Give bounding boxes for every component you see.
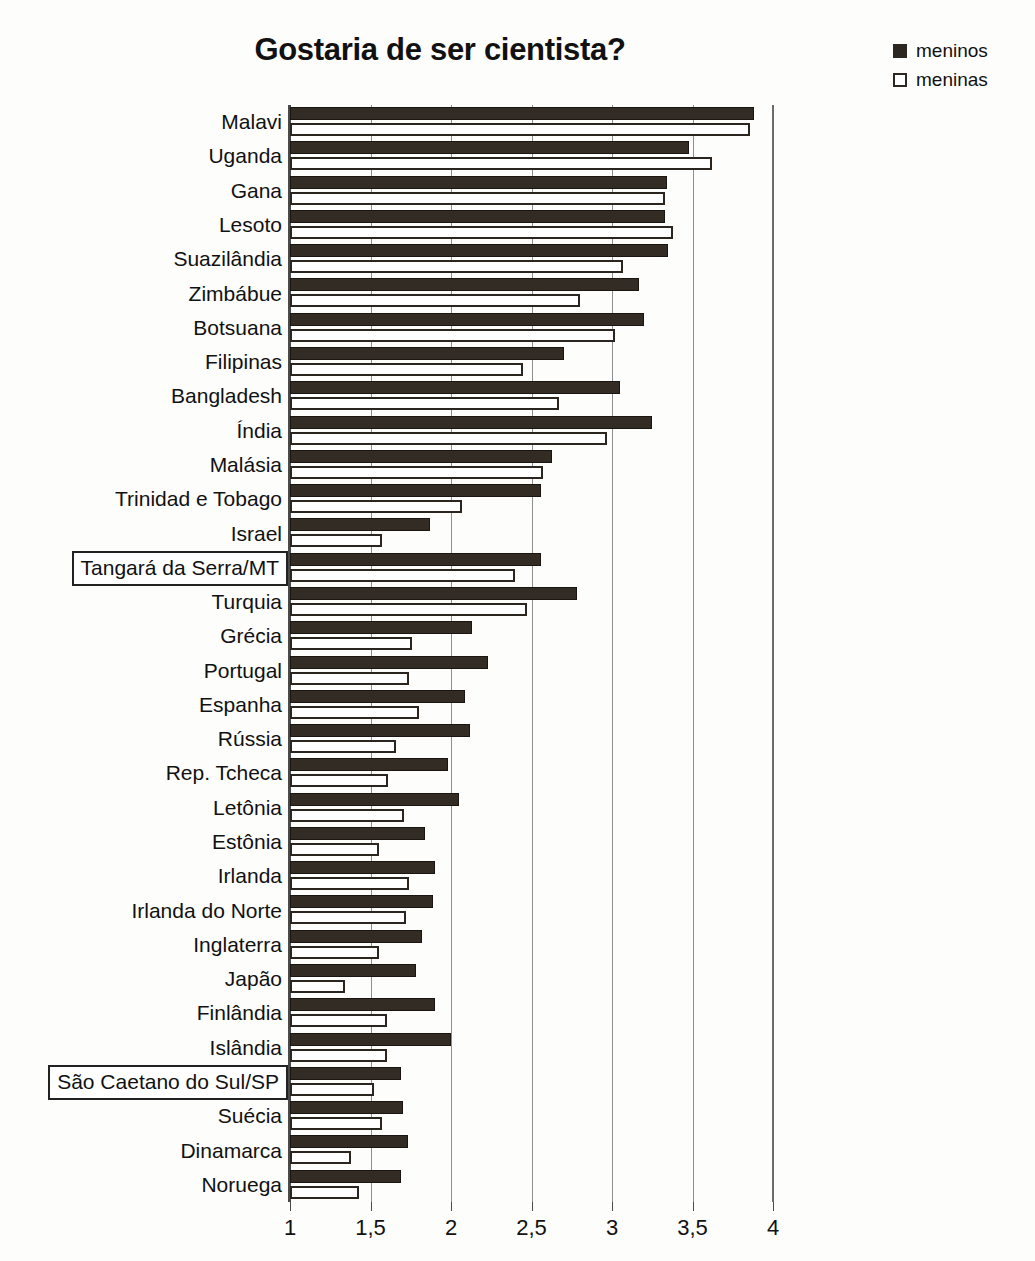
bar-meninas — [290, 946, 379, 959]
bar-row — [290, 379, 773, 413]
bar-row — [290, 928, 773, 962]
x-tick-label: 2 — [421, 1215, 481, 1241]
bar-row — [290, 722, 773, 756]
bar-meninos — [290, 690, 465, 703]
bar-row — [290, 414, 773, 448]
bar-meninos — [290, 827, 425, 840]
category-label: Japão — [225, 966, 282, 992]
bar-meninas — [290, 637, 412, 650]
category-label: Trinidad e Tobago — [115, 486, 282, 512]
category-label: Irlanda — [218, 863, 282, 889]
bar-meninos — [290, 381, 620, 394]
bar-row — [290, 619, 773, 653]
bar-meninas — [290, 603, 527, 616]
bar-meninas — [290, 157, 712, 170]
category-label: Letônia — [213, 795, 282, 821]
bar-row — [290, 516, 773, 550]
x-tick-label: 2,5 — [502, 1215, 562, 1241]
bar-row — [290, 893, 773, 927]
bar-meninas — [290, 1049, 387, 1062]
bar-meninos — [290, 416, 652, 429]
bar-meninos — [290, 724, 470, 737]
category-label: Islândia — [210, 1035, 282, 1061]
bar-meninas — [290, 774, 388, 787]
bar-meninas — [290, 877, 409, 890]
category-label: Lesoto — [219, 212, 282, 238]
bar-row — [290, 551, 773, 585]
category-label: Israel — [231, 521, 282, 547]
bar-meninos — [290, 484, 541, 497]
bar-row — [290, 1168, 773, 1202]
bar-meninos — [290, 210, 665, 223]
bar-row — [290, 105, 773, 139]
category-label: Noruega — [201, 1172, 282, 1198]
bar-meninos — [290, 313, 644, 326]
category-label: Dinamarca — [180, 1138, 282, 1164]
bar-meninas — [290, 294, 580, 307]
bar-row — [290, 1133, 773, 1167]
bar-meninos — [290, 1135, 408, 1148]
bar-meninas — [290, 500, 462, 513]
bar-meninas — [290, 1083, 374, 1096]
bar-row — [290, 688, 773, 722]
x-tick — [290, 1202, 291, 1211]
category-label: São Caetano do Sul/SP — [48, 1065, 288, 1100]
bar-meninas — [290, 911, 406, 924]
x-tick — [451, 1202, 452, 1211]
bar-meninos — [290, 998, 435, 1011]
bar-meninas — [290, 363, 523, 376]
legend-label-meninas: meninas — [916, 69, 988, 91]
bar-row — [290, 1065, 773, 1099]
category-label: Uganda — [208, 143, 282, 169]
bar-meninas — [290, 192, 665, 205]
bar-meninas — [290, 1117, 382, 1130]
bar-row — [290, 654, 773, 688]
bar-meninas — [290, 980, 345, 993]
legend-item-meninos: meninos — [893, 36, 988, 65]
category-label: Grécia — [220, 623, 282, 649]
legend-item-meninas: meninas — [893, 65, 988, 94]
bar-meninos — [290, 518, 430, 531]
bar-row — [290, 276, 773, 310]
bar-meninos — [290, 1170, 401, 1183]
category-label: Finlândia — [197, 1000, 282, 1026]
bar-meninas — [290, 809, 404, 822]
bar-meninos — [290, 278, 639, 291]
bar-meninas — [290, 740, 396, 753]
bar-meninos — [290, 347, 564, 360]
category-label: Índia — [236, 418, 282, 444]
page-title: Gostaria de ser cientista? — [0, 32, 880, 68]
bar-meninos — [290, 758, 448, 771]
category-label: Inglaterra — [193, 932, 282, 958]
bar-meninos — [290, 793, 459, 806]
category-label: Espanha — [199, 692, 282, 718]
bar-row — [290, 825, 773, 859]
x-tick-label: 4 — [743, 1215, 803, 1241]
bar-row — [290, 962, 773, 996]
x-tick-label: 3 — [582, 1215, 642, 1241]
category-label: Malásia — [210, 452, 282, 478]
bar-meninos — [290, 1101, 403, 1114]
bar-meninas — [290, 226, 673, 239]
category-label: Estônia — [212, 829, 282, 855]
bar-row — [290, 1031, 773, 1065]
bar-meninos — [290, 621, 472, 634]
category-label: Portugal — [204, 658, 282, 684]
bar-meninas — [290, 466, 543, 479]
bar-meninas — [290, 260, 623, 273]
bar-meninos — [290, 176, 667, 189]
bar-meninas — [290, 534, 382, 547]
legend-label-meninos: meninos — [916, 40, 988, 62]
bar-meninas — [290, 397, 559, 410]
bar-meninos — [290, 1033, 451, 1046]
bar-meninas — [290, 706, 419, 719]
legend-swatch-filled-icon — [893, 44, 907, 58]
bar-meninos — [290, 141, 689, 154]
bar-row — [290, 448, 773, 482]
bar-meninos — [290, 930, 422, 943]
x-tick-label: 1 — [260, 1215, 320, 1241]
bar-meninos — [290, 587, 577, 600]
bar-meninos — [290, 244, 668, 257]
bar-row — [290, 208, 773, 242]
bar-meninas — [290, 123, 750, 136]
